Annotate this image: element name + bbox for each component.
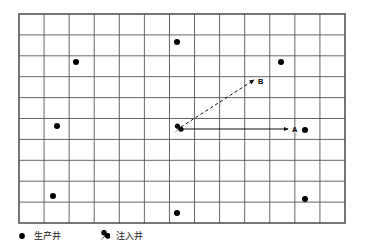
injection-well-marker	[174, 123, 184, 133]
legend-item-production-well: 生产井	[16, 230, 61, 242]
legend-item-injection-well: 注入井	[98, 230, 143, 242]
grid	[19, 14, 345, 223]
production-well-marker	[278, 59, 284, 65]
production-well-marker	[50, 193, 56, 199]
well-pattern-figure: AB 生产井注入井	[0, 0, 367, 250]
production-well-marker	[302, 127, 308, 133]
flow-arrow-b	[181, 80, 254, 127]
legend: 生产井注入井	[0, 228, 367, 250]
production-well-icon	[16, 230, 28, 242]
legend-label: 生产井	[34, 232, 61, 241]
production-well-marker	[174, 39, 180, 45]
production-well-marker	[54, 123, 60, 129]
direction-label-a: A	[292, 126, 297, 134]
injection-well-icon	[98, 230, 110, 242]
flow-direction-annotations	[181, 80, 288, 129]
well-markers	[50, 39, 308, 216]
legend-label: 注入井	[116, 232, 143, 241]
production-well-marker	[73, 59, 79, 65]
production-well-marker	[302, 196, 308, 202]
direction-label-b: B	[258, 78, 263, 86]
production-well-marker	[174, 210, 180, 216]
well-map-canvas	[0, 0, 367, 250]
